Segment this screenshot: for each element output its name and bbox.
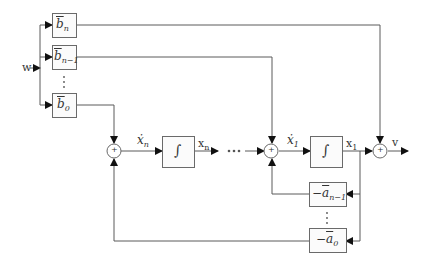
gain-label-bn: bn [56, 18, 69, 33]
output-label-v: v [392, 137, 398, 148]
gain-label-bn-1: bn−1 [54, 50, 79, 65]
gain-label-b0: b0 [57, 98, 70, 113]
integrator-symbol-1: ∫ [322, 143, 329, 157]
sum-sign-n: + [111, 146, 118, 154]
signal-label-xdot-n: ẋn [137, 134, 149, 149]
block-diagram: w bn bn−1 b0 + + + ẋn ∫ xn ẋ1 ∫ x1 v −an… [0, 0, 425, 267]
input-label-w: w [22, 62, 31, 73]
signal-label-xn: xn [198, 138, 209, 152]
sum-sign-out: + [377, 146, 384, 154]
gain-label-a0: −a0 [316, 233, 338, 248]
gain-label-an-1: −an−1 [312, 187, 346, 202]
diagram-lines [0, 0, 425, 267]
signal-label-xdot-1: ẋ1 [287, 134, 299, 149]
signal-label-x1: x1 [346, 138, 357, 152]
sum-sign-1: + [268, 146, 275, 154]
integrator-symbol-n: ∫ [174, 143, 181, 157]
